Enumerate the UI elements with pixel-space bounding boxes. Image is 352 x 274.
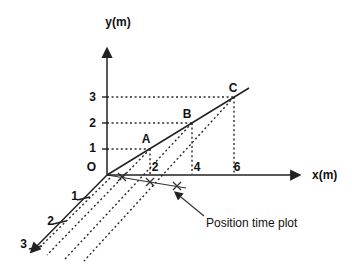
t-tick-label-1: 1 [71,189,78,203]
y-axis-label: y(m) [105,15,130,29]
x-tick-label-2: 2 [152,160,159,174]
dotted-diagonal-from-A [47,149,150,255]
physics-figure: y(m) x(m) 3 2 1 2 4 6 1 2 3 O A B C Posi… [0,0,352,274]
point-label-A: A [142,132,151,146]
y-tick-label-1: 1 [89,141,96,155]
x-tick-label-4: 4 [194,160,201,174]
t-axis [32,175,107,251]
x-axis-label: x(m) [312,168,337,182]
y-tick-label-2: 2 [89,116,96,130]
origin-label: O [87,160,96,174]
x-tick-label-6: 6 [234,160,241,174]
annotation-label: Position time plot [206,216,298,230]
t-tick-label-3: 3 [20,237,27,251]
annotation-arrow [176,193,204,216]
figure-canvas: y(m) x(m) 3 2 1 2 4 6 1 2 3 O A B C Posi… [0,0,352,274]
y-tick-label-3: 3 [89,90,96,104]
point-label-B: B [183,107,192,121]
point-label-C: C [229,81,238,95]
t-tick-label-2: 2 [47,214,54,228]
trajectory-line-OABC [107,88,249,175]
dotted-diagonal-from-B [65,123,192,259]
